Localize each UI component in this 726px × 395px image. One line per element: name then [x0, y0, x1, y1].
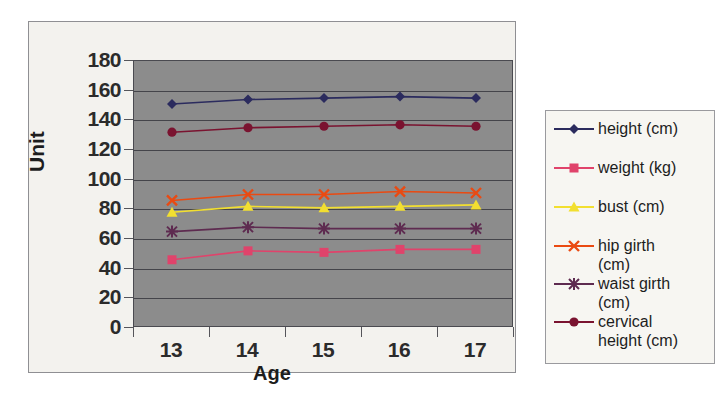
data-point-circle — [243, 123, 252, 132]
data-point-diamond — [471, 93, 481, 103]
legend-label: weight (kg) — [598, 158, 676, 177]
y-tick-label: 180 — [57, 49, 121, 70]
data-point-diamond — [319, 93, 329, 103]
y-axis-title: Unit — [25, 131, 49, 172]
legend-marker-triangle-icon — [552, 198, 596, 216]
legend-marker-square-icon — [552, 159, 596, 177]
y-tick-label: 160 — [57, 79, 121, 100]
data-point-diamond — [395, 92, 405, 102]
series-weight-kg — [168, 245, 481, 264]
data-point-asterisk — [470, 223, 482, 235]
legend-label: height (cm) — [598, 119, 678, 138]
data-point-circle — [319, 122, 328, 131]
legend-label: cervical height (cm) — [598, 312, 678, 350]
data-point-diamond — [569, 124, 579, 134]
x-axis-title: Age — [29, 362, 515, 385]
chart-figure: Unit 180160140120100806040200 1314151617… — [0, 0, 726, 395]
legend-item[interactable]: waist girth (cm) — [552, 274, 670, 312]
data-point-circle — [167, 128, 176, 137]
data-point-asterisk — [242, 221, 254, 233]
legend-marker-cross-icon — [552, 237, 596, 255]
series-height-cm — [167, 92, 481, 109]
x-tick-label: 13 — [141, 339, 201, 360]
legend-label: waist girth (cm) — [598, 274, 670, 312]
series-cervical-height-cm — [167, 120, 480, 137]
data-point-diamond — [243, 95, 253, 105]
y-tick-label: 100 — [57, 168, 121, 189]
data-point-asterisk — [394, 223, 406, 235]
x-tick-mark — [513, 327, 514, 337]
x-tick-mark — [209, 327, 210, 337]
y-tick-mark — [124, 327, 133, 328]
legend-item[interactable]: bust (cm) — [552, 197, 665, 216]
y-tick-label: 0 — [57, 316, 121, 337]
y-tick-mark — [124, 238, 133, 239]
legend-marker-circle-icon — [552, 313, 596, 331]
series-bust-cm — [167, 199, 482, 216]
chart-panel: Unit 180160140120100806040200 1314151617… — [28, 21, 516, 373]
y-tick-mark — [124, 208, 133, 209]
data-point-square — [244, 246, 253, 255]
y-tick-label: 140 — [57, 108, 121, 129]
legend-item[interactable]: weight (kg) — [552, 158, 676, 177]
y-tick-label: 120 — [57, 138, 121, 159]
x-tick-mark — [437, 327, 438, 337]
data-point-square — [320, 248, 329, 257]
legend-label: bust (cm) — [598, 197, 665, 216]
legend-item[interactable]: hip girth (cm) — [552, 236, 655, 274]
legend-item[interactable]: cervical height (cm) — [552, 312, 678, 350]
data-point-circle — [395, 120, 404, 129]
y-tick-label: 40 — [57, 257, 121, 278]
y-tick-mark — [124, 149, 133, 150]
x-tick-mark — [285, 327, 286, 337]
legend-marker-diamond-icon — [552, 120, 596, 138]
data-point-circle — [471, 122, 480, 131]
data-point-asterisk — [318, 223, 330, 235]
data-point-square — [396, 245, 405, 254]
series-waist-girth-cm — [166, 221, 482, 237]
y-tick-label: 80 — [57, 197, 121, 218]
y-tick-label: 60 — [57, 227, 121, 248]
data-point-asterisk — [568, 278, 580, 290]
series-layer — [134, 61, 514, 328]
data-point-square — [168, 255, 177, 264]
y-tick-mark — [124, 179, 133, 180]
y-tick-mark — [124, 297, 133, 298]
data-point-asterisk — [166, 226, 178, 238]
data-point-diamond — [167, 99, 177, 109]
x-tick-label: 16 — [369, 339, 429, 360]
plot-area — [133, 60, 513, 327]
data-point-circle — [569, 317, 578, 326]
x-tick-mark — [133, 327, 134, 337]
x-tick-label: 15 — [293, 339, 353, 360]
y-tick-label: 20 — [57, 286, 121, 307]
legend-item[interactable]: height (cm) — [552, 119, 678, 138]
chart-legend: height (cm)weight (kg)bust (cm)hip girth… — [545, 110, 715, 364]
y-tick-mark — [124, 268, 133, 269]
legend-marker-asterisk-icon — [552, 275, 596, 293]
x-tick-mark — [361, 327, 362, 337]
y-tick-mark — [124, 90, 133, 91]
data-point-square — [570, 164, 579, 173]
y-tick-mark — [124, 60, 133, 61]
x-tick-label: 17 — [445, 339, 505, 360]
data-point-square — [472, 245, 481, 254]
legend-label: hip girth (cm) — [598, 236, 655, 274]
x-tick-label: 14 — [217, 339, 277, 360]
y-tick-mark — [124, 119, 133, 120]
